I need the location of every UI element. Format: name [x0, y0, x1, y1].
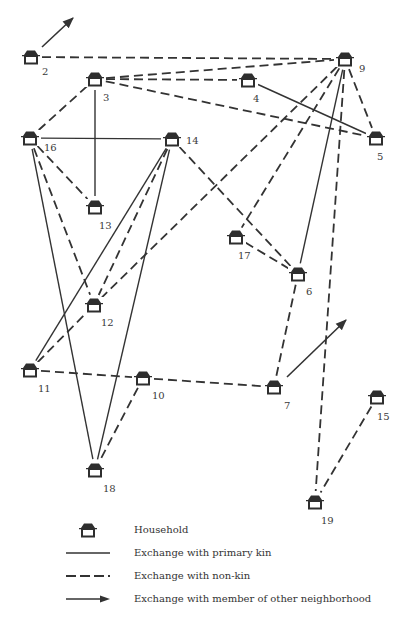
- edge-non-kin-16-13: [38, 146, 88, 199]
- node-label: 7: [284, 400, 290, 411]
- edge-primary-kin-14-18: [98, 150, 170, 460]
- dashed-line-icon: [66, 569, 110, 583]
- household-node-11: 11: [20, 362, 51, 394]
- legend-label: Exchange with primary kin: [134, 547, 271, 558]
- household-node-4: 4: [238, 72, 259, 104]
- edge-non-kin-17-6: [245, 243, 288, 269]
- household-node-6: 6: [288, 266, 312, 297]
- node-label: 2: [42, 66, 48, 77]
- node-label: 4: [253, 93, 259, 104]
- household-node-7: 7: [264, 379, 290, 411]
- household-node-17: 17: [226, 229, 251, 261]
- house-icon: [66, 523, 110, 537]
- legend: Household Exchange with primary kin Exch…: [66, 518, 396, 610]
- node-label: 5: [377, 151, 383, 162]
- edge-non-kin-15-19: [321, 407, 372, 493]
- node-label: 14: [186, 135, 199, 146]
- household-node-18: 18: [85, 462, 116, 494]
- nodes-layer: 234591614131761211107151819: [20, 49, 390, 526]
- node-label: 3: [103, 92, 109, 103]
- node-label: 13: [99, 220, 112, 231]
- external-arrow-from-2: [42, 18, 73, 47]
- node-label: 9: [359, 63, 365, 74]
- edge-non-kin-3-9: [106, 60, 334, 78]
- household-node-2: 2: [21, 49, 48, 77]
- household-node-13: 13: [85, 199, 112, 231]
- node-label: 15: [377, 411, 390, 422]
- household-node-15: 15: [367, 389, 390, 422]
- edge-non-kin-10-7: [154, 379, 263, 386]
- edges-layer: [32, 57, 372, 492]
- legend-label: Exchange with member of other neighborho…: [134, 593, 371, 604]
- household-node-10: 10: [133, 370, 165, 401]
- household-node-16: 16: [20, 130, 57, 153]
- node-label: 16: [44, 142, 57, 153]
- arrow-line-icon: [66, 592, 110, 606]
- household-node-12: 12: [84, 297, 114, 328]
- edge-non-kin-3-16: [38, 86, 87, 130]
- edge-non-kin-16-12: [34, 148, 90, 294]
- legend-item-primary-kin: Exchange with primary kin: [66, 541, 396, 564]
- legend-label: Household: [134, 524, 188, 535]
- node-label: 18: [103, 483, 116, 494]
- edge-non-kin-9-5: [349, 69, 372, 128]
- edge-non-kin-14-6: [180, 147, 291, 266]
- node-label: 11: [38, 383, 51, 394]
- edge-primary-kin-16-18: [32, 149, 93, 459]
- legend-label: Exchange with non-kin: [134, 570, 250, 581]
- legend-item-other-neighborhood: Exchange with member of other neighborho…: [66, 587, 396, 610]
- edge-non-kin-6-7: [276, 285, 295, 376]
- legend-item-household: Household: [66, 518, 396, 541]
- edge-non-kin-3-4: [106, 79, 237, 80]
- edge-non-kin-11-12: [38, 313, 87, 362]
- edge-non-kin-9-19: [316, 70, 345, 491]
- solid-line-icon: [66, 546, 110, 560]
- edge-non-kin-3-5: [106, 81, 365, 135]
- household-node-5: 5: [366, 130, 386, 162]
- legend-item-non-kin: Exchange with non-kin: [66, 564, 396, 587]
- edge-non-kin-2-9: [42, 57, 334, 59]
- edge-non-kin-9-12: [102, 67, 337, 298]
- household-node-14: 14: [162, 131, 199, 147]
- node-label: 6: [306, 286, 312, 297]
- node-label: 12: [101, 317, 114, 328]
- node-label: 10: [152, 390, 165, 401]
- edge-primary-kin-16-14: [41, 138, 161, 139]
- household-node-3: 3: [85, 71, 109, 103]
- external-arrow-from-7: [287, 320, 346, 377]
- node-label: 17: [238, 250, 251, 261]
